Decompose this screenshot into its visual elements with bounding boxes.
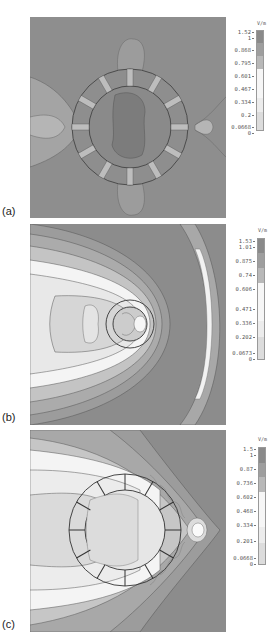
colorbar-c-tick: 0.602 — [223, 494, 253, 500]
colorbar-c — [258, 447, 266, 565]
colorbar-c-tick: 1 — [223, 452, 253, 458]
colorbar-a — [256, 30, 264, 131]
panel-c-plot — [30, 430, 226, 632]
colorbar-b — [257, 238, 265, 360]
colorbar-c-tick: 0.468 — [223, 508, 253, 514]
colorbar-c-unit: V/m — [258, 436, 267, 442]
colorbar-b-tick: 0.336 — [222, 320, 252, 326]
colorbar-a-tick: 0.868 — [221, 47, 251, 53]
colorbar-a-tick: 0.467 — [221, 86, 251, 92]
panel-c-label: (c) — [2, 618, 15, 630]
panel-b-plot — [30, 224, 226, 425]
colorbar-a-unit: V/m — [257, 20, 266, 26]
colorbar-a-tick: 0.2 — [221, 112, 251, 118]
panel-a-contour — [30, 17, 226, 218]
colorbar-a-tick: 0.601 — [221, 73, 251, 79]
colorbar-c-tick: 0.87 — [223, 466, 253, 472]
panel-a-label: (a) — [2, 205, 15, 217]
colorbar-c-tick: 0 — [223, 561, 253, 567]
panel-b-label: (b) — [2, 411, 15, 423]
panel-c-contour — [30, 430, 226, 632]
panel-b-contour — [30, 224, 226, 425]
colorbar-c-tick: 0.201 — [223, 538, 253, 544]
colorbar-a-tick: 0.795 — [221, 60, 251, 66]
colorbar-c-tick: 0.736 — [223, 480, 253, 486]
panel-a-plot — [30, 17, 226, 218]
colorbar-b-tick: 0.471 — [222, 306, 252, 312]
colorbar-b-unit: V/m — [258, 227, 267, 233]
colorbar-b-tick: 1.01 — [222, 244, 252, 250]
colorbar-b-tick: 0.606 — [222, 286, 252, 292]
colorbar-a-tick: 1 — [221, 35, 251, 41]
colorbar-b-tick: 0.875 — [222, 258, 252, 264]
colorbar-b-tick: 0.74 — [222, 272, 252, 278]
colorbar-c-tick: 0.334 — [223, 522, 253, 528]
colorbar-b-tick: 0.202 — [222, 334, 252, 340]
colorbar-a-tick: 0.334 — [221, 99, 251, 105]
colorbar-a-tick: 0 — [221, 130, 251, 136]
colorbar-b-tick: 0 — [222, 356, 252, 362]
